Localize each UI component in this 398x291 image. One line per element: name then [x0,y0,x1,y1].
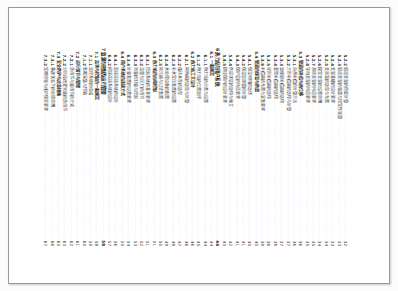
toc-entry-page-number: 49 [163,240,169,246]
toc-entry[interactable]: 6.2热力站工艺设计46 [189,48,195,246]
toc-entry[interactable]: 5.3.4套筒补偿器的选用38 [272,48,278,246]
toc-entry-page-number: 66 [48,240,54,246]
toc-entry[interactable]: 5.4管道的保温与防腐40 [252,48,258,246]
toc-entry-title: 数据采集与传输 [80,67,86,95]
toc-entry[interactable]: 5.2.5支吊架的选型与布置34 [323,48,329,246]
toc-entry[interactable]: 6.3.1控制系统的基本要求51 [144,48,150,246]
toc-entry-page-number: 61 [74,240,80,246]
toc-entry[interactable]: 7.3.2定期检验与维护保养要求67 [42,48,48,246]
toc-entry[interactable]: 6.2.1换热器的选型与计算46 [182,48,188,246]
toc-entry-page-number: 38 [265,240,271,246]
toc-entry[interactable]: 5.4.1保温材料的选择40 [246,48,252,246]
toc-entry[interactable]: 6.3.4计量装置的设置要求54 [125,48,131,246]
toc-entry[interactable]: 6.1一般规定44 [208,48,214,246]
toc-entry-number: 6.3.3 [131,54,137,66]
toc-entry[interactable]: 6热力站与用户系统44 [214,48,220,246]
toc-entry[interactable]: 6.3热力站的自动控制51 [150,48,156,246]
toc-entry[interactable]: 5.4.2保温层厚度的计算41 [240,48,246,246]
toc-entry[interactable]: 5.3.6补偿器的布置与安装要求39 [259,48,265,246]
toc-entry-title: 防腐涂层的选用与施工 [227,67,233,107]
toc-entry-title: 热力站的分类与设置 [201,67,207,103]
toc-entry-page-number: 50 [157,240,163,246]
toc-entry[interactable]: 7.2.1质调节与量调节的方式62 [68,48,74,246]
toc-entry[interactable]: 7.2运行调节与管理61 [74,48,80,246]
toc-entry-page-number: 57 [106,240,112,246]
toc-entry-number: 5.4.5 [221,54,227,66]
toc-entry[interactable]: 6.1.2热力站的位置选择45 [195,48,201,246]
toc-entry[interactable]: 5.2.2管道支架的荷载计算32 [342,48,348,246]
toc-entry-page-number: 58 [99,240,105,246]
toc-entry[interactable]: 5.4.5阴极保护的设计要求43 [221,48,227,246]
toc-entry-number: 5.3.3 [278,54,284,66]
toc-entry[interactable]: 7.3.1事故状态下的处理原则66 [48,48,54,246]
toc-entry-number: 5.3.5 [265,54,271,66]
toc-entry[interactable]: 5.3.1自然补偿的计算方法36 [291,48,297,246]
toc-entry[interactable]: 6.2.2循环水泵的选型47 [176,48,182,246]
toc-entry-title: 阴极保护的设计要求 [221,67,227,103]
toc-entry-number: 6.4 [119,51,125,58]
toc-entry-page-number: 43 [221,240,227,246]
toc-entry-number: 6.1.1 [201,54,207,66]
toc-entry-page-number: 63 [61,240,67,246]
toc-entry-number: 6.4.1 [112,54,118,66]
toc-entry[interactable]: 7.1.1监控系统的组成59 [87,48,93,246]
toc-leader-dots [261,112,265,239]
toc-entry[interactable]: 6.3.3流量的测量与控制53 [131,48,137,246]
toc-entry-title: 计量装置的设置要求 [125,67,131,103]
toc-entry[interactable]: 6.1.1热力站的分类与设置44 [201,48,207,246]
toc-entry[interactable]: 6.4.1直接连接系统的设计56 [112,48,118,246]
toc-entry[interactable]: 5.2.7滑动支架的构造要求35 [310,48,316,246]
toc-entry[interactable]: 7.3安全防护与应急措施65 [55,48,61,246]
toc-entry[interactable]: 5.4.4防腐涂层的选用与施工42 [227,48,233,246]
toc-entry-page-number: 52 [138,240,144,246]
toc-entry-title: 自然补偿的计算方法 [291,67,297,103]
toc-entry-page-number: 48 [170,240,176,246]
toc-entry[interactable]: 5.3.5球形补偿器的选用38 [265,48,271,246]
toc-leader-dots [159,100,163,239]
toc-entry-title: 除污器与过滤装置 [157,67,163,99]
toc-entry-number: 6 [214,48,220,51]
toc-entry[interactable]: 6.3.2温度与压力的调节52 [138,48,144,246]
toc-entry-title: 支吊架的选型与布置 [323,67,329,103]
toc-entry[interactable]: 6.2.4水处理设备的配置49 [163,48,169,246]
toc-entry-number: 6.3 [150,51,156,58]
toc-leader-dots [83,96,87,239]
toc-entry[interactable]: 7.1监测与控制的一般规定58 [93,48,99,246]
toc-entry[interactable]: 5.2.8导向支架的构造要求35 [303,48,309,246]
toc-entry[interactable]: 5.3.3波纹管补偿器的选用37 [278,48,284,246]
toc-entry-page-number: 44 [214,240,220,246]
toc-entry-title: 管道支架的强度与稳定性验算 [335,67,341,119]
toc-entry[interactable]: 6.2.3补水定压装置的设置48 [170,48,176,246]
toc-leader-dots [204,104,208,239]
toc-entry[interactable]: 5.2.6固定支架的设置原则34 [316,48,322,246]
toc-entry[interactable]: 5.2.4支架基础的设计要求33 [329,48,335,246]
toc-entry-page-number: 62 [68,240,74,246]
toc-entry-number: 5.4.1 [246,54,252,66]
toc-entry[interactable]: 5.4.3保护层的构造要求41 [233,48,239,246]
toc-entry[interactable]: 7.1.2数据采集与传输60 [80,48,86,246]
toc-entry[interactable]: 7监测与控制及运行管理58 [99,48,105,246]
toc-entry-title: 运行调节与管理 [74,59,80,87]
toc-entry-title: 分阶段改变流量的质调节 [61,67,67,111]
toc-entry[interactable]: 5.2.3管道支架的强度与稳定性验算33 [335,48,341,246]
toc-entry[interactable]: 5.3管道的补偿与热位移36 [297,48,303,246]
toc-entry[interactable]: 6.4.2间接连接系统的设计57 [106,48,112,246]
toc-entry[interactable]: 6.4用户系统的连接方式55 [119,48,125,246]
toc-entry-number: 6.3.4 [125,54,131,66]
toc-entry-page-number: 37 [284,240,290,246]
toc-entry-number: 6.2 [189,51,195,58]
toc-entry-page-number: 35 [310,240,316,246]
toc-entry-number: 5.3.4 [272,54,278,66]
toc-entry[interactable]: 5.3.2方形补偿器的选用与计算37 [284,48,290,246]
toc-entry-page-number: 40 [252,240,258,246]
toc-entry[interactable]: 6.2.5除污器与过滤装置50 [157,48,163,246]
toc-leader-dots [115,104,119,239]
toc-entry-number: 6.2.1 [182,54,188,66]
toc-leader-dots [146,104,150,239]
toc-entry-title: 保温材料的选择 [246,67,252,95]
toc-entry-number: 5.3.1 [291,54,297,66]
toc-entry[interactable]: 7.2.2分阶段改变流量的质调节63 [61,48,67,246]
toc-leader-dots [306,104,310,239]
toc-leader-dots [255,92,259,238]
toc-leader-dots [64,112,68,239]
